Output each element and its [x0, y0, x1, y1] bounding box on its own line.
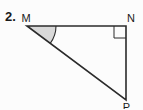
triangle-mnp	[27, 26, 126, 100]
vertex-label-n: N	[127, 12, 135, 24]
worksheet-figure: { "problem": { "number_label": "2." }, "…	[0, 0, 143, 109]
vertex-label-m: M	[21, 12, 30, 24]
triangle-figure: M N P	[0, 0, 143, 109]
vertex-label-p: P	[123, 101, 130, 110]
right-angle-marker-n	[114, 26, 126, 38]
